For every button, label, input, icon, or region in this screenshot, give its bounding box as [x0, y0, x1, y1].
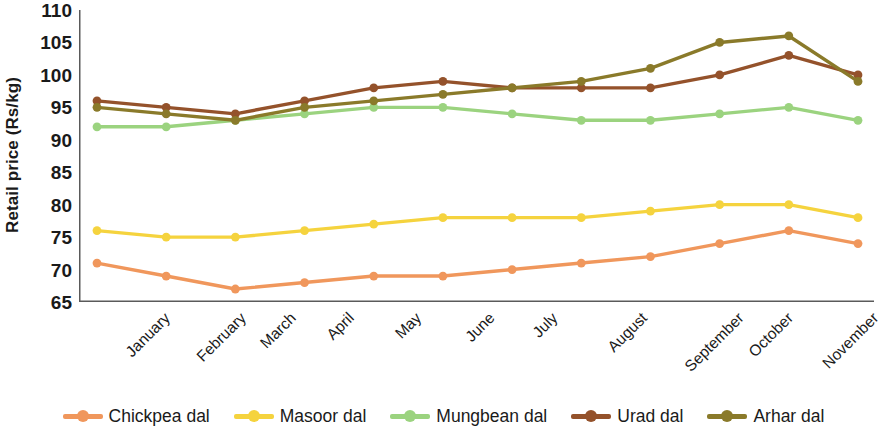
legend-item-mungbean-dal[interactable]: Mungbean dal: [390, 408, 547, 426]
series-line: [97, 55, 858, 113]
data-point: [369, 96, 378, 105]
series-urad-dal: [93, 51, 863, 118]
data-point: [300, 226, 309, 235]
x-axis-tick-august: August: [604, 309, 651, 356]
data-point: [508, 83, 517, 92]
data-point: [369, 220, 378, 229]
legend-label: Masoor dal: [280, 408, 367, 426]
x-axis-tick-january: January: [122, 309, 174, 361]
series-line: [97, 205, 858, 237]
legend-swatch-icon: [707, 410, 747, 422]
data-point: [508, 213, 517, 222]
data-point: [784, 32, 793, 41]
data-point: [784, 226, 793, 235]
legend-swatch-icon: [390, 410, 430, 422]
data-point: [439, 103, 448, 112]
y-axis-tick-labels: 11010510095908580757065: [20, 0, 72, 310]
legend-swatch-icon: [63, 410, 103, 422]
data-point: [715, 239, 724, 248]
data-point: [439, 77, 448, 86]
x-axis-tick-june: June: [462, 309, 499, 346]
x-axis-tick-february: February: [193, 309, 250, 366]
y-axis-tick-100: 100: [20, 65, 72, 84]
y-axis-tick-95: 95: [20, 98, 72, 117]
line-chart: Retail price (Rs/kg) 1101051009590858075…: [0, 0, 887, 431]
data-point: [715, 38, 724, 47]
y-axis-tick-110: 110: [20, 1, 72, 20]
data-point: [369, 272, 378, 281]
data-point: [162, 272, 171, 281]
legend-label: Chickpea dal: [109, 408, 210, 426]
data-point: [162, 233, 171, 242]
series-line: [97, 36, 858, 120]
x-axis-tick-october: October: [745, 309, 797, 361]
y-axis-tick-85: 85: [20, 163, 72, 182]
data-point: [784, 200, 793, 209]
legend-item-urad-dal[interactable]: Urad dal: [571, 408, 683, 426]
x-axis-tick-july: July: [529, 309, 561, 341]
y-axis-tick-90: 90: [20, 130, 72, 149]
data-point: [854, 239, 863, 248]
series-line: [97, 231, 858, 289]
data-point: [577, 259, 586, 268]
legend-item-masoor-dal[interactable]: Masoor dal: [234, 408, 367, 426]
plot-svg: [79, 10, 874, 302]
y-axis-tick-80: 80: [20, 195, 72, 214]
legend-item-arhar-dal[interactable]: Arhar dal: [707, 408, 824, 426]
data-point: [715, 200, 724, 209]
data-point: [577, 116, 586, 125]
data-point: [162, 109, 171, 118]
data-point: [508, 109, 517, 118]
x-axis-tick-march: March: [257, 309, 300, 352]
plot-area: [79, 10, 874, 302]
data-point: [300, 278, 309, 287]
legend-label: Arhar dal: [753, 408, 824, 426]
y-axis-tick-75: 75: [20, 228, 72, 247]
data-point: [784, 51, 793, 60]
data-point: [93, 122, 102, 131]
data-point: [93, 259, 102, 268]
data-point: [715, 109, 724, 118]
data-point: [439, 272, 448, 281]
data-point: [854, 213, 863, 222]
data-point: [231, 116, 240, 125]
chart-legend: Chickpea dalMasoor dalMungbean dalUrad d…: [0, 408, 887, 426]
data-point: [646, 116, 655, 125]
legend-swatch-icon: [234, 410, 274, 422]
data-point: [854, 77, 863, 86]
x-axis-tick-labels: JanuaryFebruaryMarchAprilMayJuneJulyAugu…: [79, 305, 874, 395]
y-axis-tick-65: 65: [20, 293, 72, 312]
x-axis-tick-april: April: [323, 309, 358, 344]
data-point: [300, 103, 309, 112]
data-point: [646, 64, 655, 73]
data-point: [93, 103, 102, 112]
data-point: [646, 83, 655, 92]
legend-item-chickpea-dal[interactable]: Chickpea dal: [63, 408, 210, 426]
data-point: [577, 213, 586, 222]
data-point: [231, 233, 240, 242]
x-axis-tick-september: September: [682, 309, 748, 375]
legend-swatch-icon: [571, 410, 611, 422]
data-point: [508, 265, 517, 274]
x-axis-tick-november: November: [819, 309, 882, 372]
data-point: [93, 226, 102, 235]
data-point: [577, 77, 586, 86]
y-axis-tick-105: 105: [20, 33, 72, 52]
series-masoor-dal: [93, 200, 863, 241]
y-axis-tick-70: 70: [20, 260, 72, 279]
data-point: [439, 90, 448, 99]
data-point: [439, 213, 448, 222]
data-point: [854, 116, 863, 125]
data-point: [784, 103, 793, 112]
x-axis-tick-may: May: [391, 309, 424, 342]
legend-label: Urad dal: [617, 408, 683, 426]
data-point: [162, 122, 171, 131]
data-point: [646, 252, 655, 261]
legend-label: Mungbean dal: [436, 408, 547, 426]
data-point: [715, 70, 724, 79]
data-point: [646, 207, 655, 216]
data-point: [369, 83, 378, 92]
data-point: [231, 285, 240, 294]
